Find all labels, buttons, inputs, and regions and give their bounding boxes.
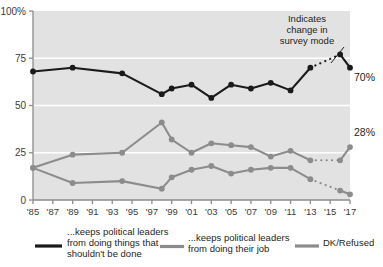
annotation-line: survey mode <box>280 35 334 46</box>
x-tick-label: '11 <box>285 206 297 217</box>
line-chart: 0255075100% '85'87'89'91'93'95'97'99'01'… <box>0 0 383 267</box>
y-tick-label: 75 <box>15 53 27 64</box>
data-point <box>119 178 125 184</box>
x-tick-label: '97 <box>146 206 158 217</box>
data-point <box>228 82 234 88</box>
x-tick-label: '89 <box>66 206 78 217</box>
annotation-line: Indicates <box>288 13 326 24</box>
data-point <box>307 157 313 163</box>
data-point <box>228 171 234 177</box>
data-point <box>347 191 353 197</box>
data-point <box>228 142 234 148</box>
x-tick-label: '17 <box>344 206 356 217</box>
data-point <box>268 154 274 160</box>
legend-label: from doing things that <box>67 237 159 248</box>
legend-label: from doing their job <box>188 243 269 254</box>
data-point <box>169 174 175 180</box>
data-point <box>119 150 125 156</box>
x-axis-ticks: '85'87'89'91'93'95'97'99'01'03'05'07'09'… <box>27 200 356 217</box>
data-point <box>248 86 254 92</box>
y-tick-label: 25 <box>15 147 27 158</box>
x-tick-label: '99 <box>165 206 177 217</box>
data-point <box>30 165 36 171</box>
data-point <box>268 165 274 171</box>
data-point <box>189 167 195 173</box>
data-point <box>268 80 274 86</box>
data-point <box>208 163 214 169</box>
x-tick-label: '87 <box>47 206 59 217</box>
data-point <box>337 188 343 194</box>
data-point <box>288 148 294 154</box>
chart-container: 0255075100% '85'87'89'91'93'95'97'99'01'… <box>0 0 383 267</box>
x-tick-label: '05 <box>225 206 237 217</box>
data-point <box>347 144 353 150</box>
annotation-line: change in <box>286 24 327 35</box>
x-tick-label: '13 <box>304 206 316 217</box>
data-point <box>189 150 195 156</box>
end-label-keeps-from-wrongdoing: 70% <box>354 71 375 83</box>
data-point <box>159 120 165 126</box>
data-point <box>307 176 313 182</box>
data-point <box>119 70 125 76</box>
data-point <box>159 91 165 97</box>
data-point <box>169 137 175 143</box>
legend-label: ...keeps political leaders <box>67 226 169 237</box>
data-point <box>307 65 313 71</box>
data-point <box>70 65 76 71</box>
end-value-labels: 70%28% <box>354 71 375 138</box>
data-point <box>70 152 76 158</box>
x-tick-label: '09 <box>265 206 277 217</box>
legend-label: shouldn't be done <box>67 248 142 259</box>
data-point <box>30 69 36 75</box>
data-point <box>347 65 353 71</box>
y-tick-label: 100% <box>0 6 26 17</box>
x-tick-label: '15 <box>324 206 336 217</box>
legend-label: ...keeps political leaders <box>188 232 290 243</box>
data-point <box>208 95 214 101</box>
data-point <box>189 82 195 88</box>
chart-legend: ...keeps political leadersfrom doing thi… <box>35 226 374 259</box>
data-point <box>337 157 343 163</box>
data-point <box>288 87 294 93</box>
data-point <box>159 186 165 192</box>
legend-label: DK/Refused <box>323 237 374 248</box>
x-tick-label: '85 <box>27 206 39 217</box>
data-point <box>70 180 76 186</box>
x-tick-label: '95 <box>126 206 138 217</box>
y-tick-label: 0 <box>20 195 26 206</box>
y-tick-label: 50 <box>15 100 27 111</box>
x-tick-label: '01 <box>185 206 197 217</box>
x-tick-label: '93 <box>106 206 118 217</box>
data-point <box>248 167 254 173</box>
data-point <box>169 86 175 92</box>
x-tick-label: '07 <box>245 206 257 217</box>
x-tick-label: '03 <box>205 206 217 217</box>
x-tick-label: '91 <box>86 206 98 217</box>
end-label-keeps-from-job: 28% <box>354 126 375 138</box>
data-point <box>248 144 254 150</box>
y-axis-ticks: 0255075100% <box>0 6 33 206</box>
data-point <box>208 140 214 146</box>
data-point <box>288 165 294 171</box>
